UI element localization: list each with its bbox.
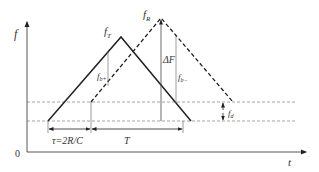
origin-label: 0 [15,148,20,159]
doppler-label: fd [228,108,235,119]
tau-label: τ=2R/C [52,135,83,146]
received-signal [91,18,233,102]
frequency-guides [27,102,296,121]
axes: f t 0 [14,22,306,168]
x-axis-label: t [288,156,292,168]
beat-up-label: fb+ [97,71,107,82]
dimension-ticks [48,102,183,133]
transmitted-signal [48,37,191,121]
fmcw-diagram: f t 0 fT fR ΔF fb− fb+ fd [0,0,319,172]
y-axis-label: f [14,27,19,41]
received-label: fR [143,8,151,23]
delta-f-label: ΔF [162,54,176,65]
transmitted-label: fT [104,25,112,40]
period-label: T [124,135,131,146]
beat-down-label: fb− [178,72,188,83]
